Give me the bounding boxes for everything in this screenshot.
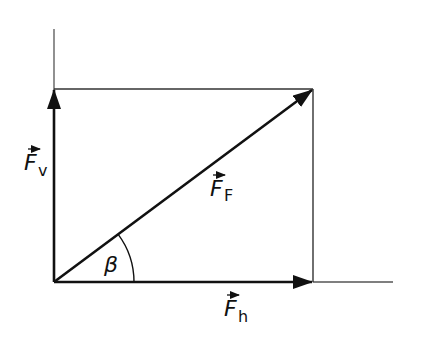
vertical-force-label: F v <box>24 149 47 180</box>
svg-text:F: F <box>24 150 37 175</box>
force-decomposition-diagram: F v F F F h β <box>0 0 423 340</box>
resultant-force-label: F F <box>210 175 233 205</box>
horizontal-force-label: F h <box>224 295 248 326</box>
resultant-force-arrow <box>54 90 312 282</box>
angle-label: β <box>103 252 118 277</box>
svg-text:v: v <box>38 161 47 180</box>
svg-text:F: F <box>224 296 237 321</box>
svg-text:F: F <box>224 186 233 205</box>
svg-text:F: F <box>210 176 223 201</box>
svg-text:h: h <box>238 307 248 326</box>
angle-arc <box>118 234 134 282</box>
